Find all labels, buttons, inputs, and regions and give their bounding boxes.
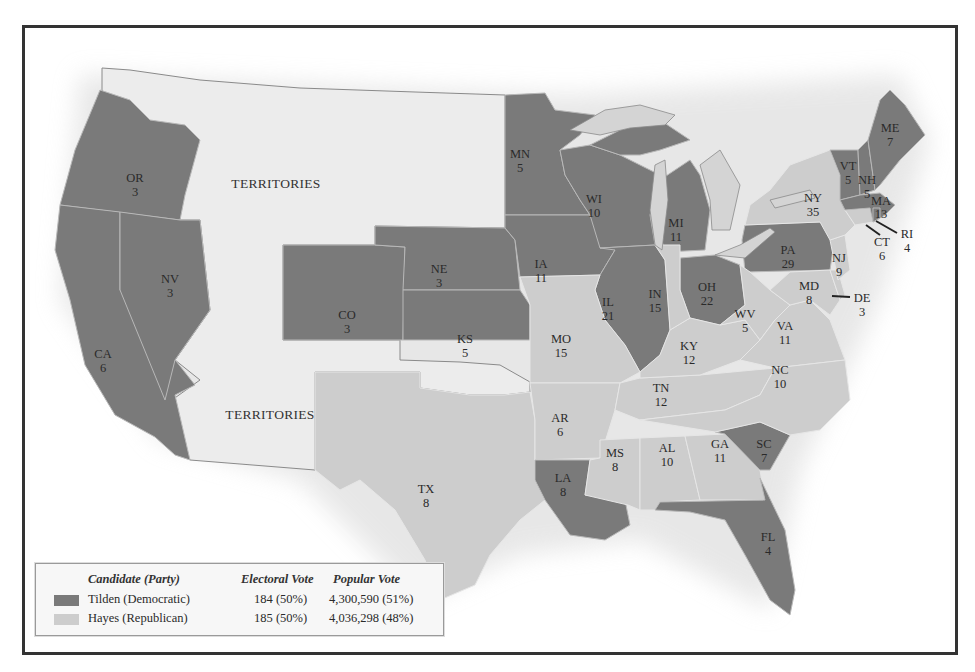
svg-text:OH: OH <box>698 280 716 294</box>
svg-text:FL: FL <box>761 530 776 544</box>
legend-electoral: 185 (50%) <box>254 611 307 626</box>
leader-line-de <box>832 296 850 297</box>
svg-text:WV: WV <box>735 307 756 321</box>
legend-header: Candidate (Party) Electoral Vote Popular… <box>36 572 443 590</box>
svg-text:NY: NY <box>804 191 822 205</box>
legend-swatch-tilden <box>54 595 79 606</box>
svg-text:22: 22 <box>701 294 714 308</box>
svg-text:PA: PA <box>781 243 796 257</box>
territories-label-north: TERRITORIES <box>231 176 320 191</box>
svg-text:KY: KY <box>680 339 698 353</box>
svg-text:6: 6 <box>879 249 885 263</box>
svg-text:NV: NV <box>161 272 179 286</box>
svg-text:5: 5 <box>462 346 468 360</box>
svg-text:5: 5 <box>517 161 523 175</box>
svg-text:DE: DE <box>854 291 871 305</box>
svg-text:TN: TN <box>653 381 670 395</box>
state-label-in: IN15 <box>648 287 661 315</box>
svg-text:11: 11 <box>535 271 547 285</box>
state-label-mi: MI11 <box>668 216 683 244</box>
svg-text:15: 15 <box>649 301 662 315</box>
svg-text:15: 15 <box>555 346 568 360</box>
svg-text:5: 5 <box>864 187 870 201</box>
svg-text:9: 9 <box>836 265 842 279</box>
svg-text:8: 8 <box>806 293 812 307</box>
legend-candidate: Hayes (Republican) <box>88 611 188 626</box>
svg-text:8: 8 <box>560 485 566 499</box>
svg-text:MA: MA <box>871 194 891 208</box>
svg-text:4: 4 <box>765 544 772 558</box>
state-label-tn: TN12 <box>653 381 670 409</box>
state-label-il: IL21 <box>602 295 615 323</box>
svg-text:GA: GA <box>711 437 729 451</box>
legend-swatch-hayes <box>54 614 79 625</box>
svg-text:6: 6 <box>557 425 563 439</box>
svg-text:WI: WI <box>586 192 602 206</box>
svg-text:11: 11 <box>779 333 791 347</box>
svg-text:SC: SC <box>756 437 771 451</box>
legend-popular: 4,036,298 (48%) <box>329 611 413 626</box>
svg-text:CT: CT <box>874 235 890 249</box>
svg-text:IN: IN <box>648 287 661 301</box>
state-label-va: VA11 <box>777 319 793 347</box>
svg-text:MD: MD <box>799 279 819 293</box>
svg-text:6: 6 <box>100 361 106 375</box>
legend-row-hayes: Hayes (Republican) 185 (50%) 4,036,298 (… <box>36 611 443 629</box>
legend-header-candidate: Candidate (Party) <box>88 572 180 587</box>
state-label-ri: RI4 <box>901 227 914 255</box>
state-label-ia: IA11 <box>534 257 547 285</box>
svg-text:35: 35 <box>807 205 820 219</box>
svg-text:5: 5 <box>742 321 748 335</box>
svg-text:8: 8 <box>612 460 618 474</box>
svg-text:10: 10 <box>774 377 787 391</box>
svg-text:10: 10 <box>661 455 674 469</box>
state-label-al: AL10 <box>659 441 676 469</box>
svg-text:5: 5 <box>845 173 851 187</box>
svg-text:21: 21 <box>602 309 615 323</box>
svg-text:13: 13 <box>875 207 888 221</box>
svg-text:3: 3 <box>344 322 350 336</box>
svg-text:RI: RI <box>901 227 914 241</box>
svg-text:8: 8 <box>423 496 429 510</box>
svg-text:CO: CO <box>338 308 355 322</box>
legend-header-popular: Popular Vote <box>333 572 400 587</box>
svg-text:IA: IA <box>534 257 547 271</box>
state-label-nc: NC10 <box>771 363 788 391</box>
svg-text:MI: MI <box>668 216 683 230</box>
svg-text:CA: CA <box>94 347 111 361</box>
svg-text:NH: NH <box>858 173 876 187</box>
legend-candidate: Tilden (Democratic) <box>88 592 190 607</box>
svg-text:ME: ME <box>881 121 900 135</box>
svg-text:IL: IL <box>602 295 614 309</box>
svg-text:3: 3 <box>167 286 173 300</box>
svg-text:7: 7 <box>887 135 893 149</box>
svg-text:NC: NC <box>771 363 788 377</box>
legend-electoral: 184 (50%) <box>254 592 307 607</box>
svg-text:TX: TX <box>418 482 435 496</box>
svg-text:11: 11 <box>714 451 726 465</box>
svg-text:AR: AR <box>551 411 569 425</box>
state-label-wi: WI10 <box>586 192 602 220</box>
svg-text:MN: MN <box>510 147 530 161</box>
svg-text:VT: VT <box>840 159 857 173</box>
svg-text:VA: VA <box>777 319 793 333</box>
svg-text:7: 7 <box>761 451 767 465</box>
svg-text:10: 10 <box>588 206 601 220</box>
svg-text:OR: OR <box>126 171 144 185</box>
legend-header-electoral: Electoral Vote <box>241 572 314 587</box>
svg-text:AL: AL <box>659 441 676 455</box>
svg-text:NJ: NJ <box>832 251 846 265</box>
svg-text:4: 4 <box>904 241 911 255</box>
legend-popular: 4,300,590 (51%) <box>329 592 413 607</box>
svg-text:12: 12 <box>655 395 668 409</box>
svg-text:3: 3 <box>132 185 138 199</box>
legend: Candidate (Party) Electoral Vote Popular… <box>35 563 444 636</box>
svg-text:12: 12 <box>683 353 696 367</box>
svg-text:NE: NE <box>431 262 448 276</box>
svg-text:3: 3 <box>436 276 442 290</box>
svg-text:3: 3 <box>859 305 865 319</box>
territories-label-south: TERRITORIES <box>225 407 314 422</box>
state-label-pa: PA29 <box>781 243 796 271</box>
svg-text:29: 29 <box>782 257 795 271</box>
svg-text:MO: MO <box>551 332 571 346</box>
